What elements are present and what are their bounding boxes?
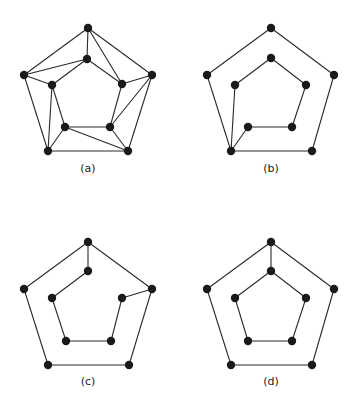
edge-or-obr	[129, 289, 152, 365]
vertex-ol	[203, 285, 211, 293]
edge-ibr-ir	[110, 84, 122, 127]
panel-a: (a)	[20, 24, 156, 175]
edge-it-ir	[271, 58, 306, 85]
vertex-ir	[302, 294, 310, 302]
vertex-or	[330, 71, 338, 79]
edge-or-obr	[312, 289, 334, 365]
panel-c: (c)	[20, 238, 156, 388]
panel-c-edges	[24, 242, 152, 365]
vertex-it	[267, 54, 275, 62]
edge-obl-ol	[24, 75, 48, 151]
panel-b-label: (b)	[263, 162, 279, 175]
panel-d-label: (d)	[263, 375, 279, 388]
vertex-il	[231, 294, 239, 302]
vertex-obr	[308, 147, 316, 155]
edge-ot-or	[271, 242, 334, 289]
edge-il-ibl	[52, 298, 66, 341]
vertex-ir	[118, 294, 126, 302]
vertex-ir	[118, 80, 126, 88]
vertex-il	[48, 294, 56, 302]
vertex-ol	[20, 71, 28, 79]
vertex-il	[48, 81, 56, 89]
vertex-ibl	[61, 123, 69, 131]
vertex-ibr	[106, 123, 114, 131]
edge-or-ibr	[110, 75, 152, 127]
vertex-ibl	[244, 123, 252, 131]
edge-ot-ol	[24, 242, 88, 289]
panel-d: (d)	[203, 238, 338, 388]
edge-ir-ibr	[292, 298, 306, 341]
vertex-il	[231, 81, 239, 89]
edge-ibr-ir	[111, 298, 122, 341]
panel-a-edges	[24, 28, 152, 151]
vertex-it	[83, 55, 91, 63]
edge-ibl-obl	[231, 127, 248, 151]
vertex-obr	[124, 147, 132, 155]
edge-ot-or	[88, 28, 152, 75]
vertex-obl	[44, 361, 52, 369]
panel-c-label: (c)	[81, 375, 96, 388]
edge-ot-ol	[207, 242, 271, 289]
panel-b-edges	[207, 28, 334, 151]
vertex-obl	[227, 147, 235, 155]
vertex-it	[267, 267, 275, 275]
edge-ot-or	[271, 28, 334, 75]
vertex-or	[330, 285, 338, 293]
edge-it-ir	[271, 271, 306, 298]
panel-b: (b)	[203, 24, 338, 175]
edge-ot-ol	[24, 28, 88, 75]
edge-ot-ir	[88, 28, 122, 84]
vertex-ot	[267, 238, 275, 246]
vertex-ol	[203, 71, 211, 79]
vertex-ibl	[244, 337, 252, 345]
edge-it-ir	[87, 59, 122, 84]
edge-il-ibl	[52, 85, 65, 127]
edge-ol-it	[24, 59, 87, 75]
edge-ibl-il	[235, 298, 248, 341]
vertex-obl	[227, 361, 235, 369]
vertex-ibr	[288, 337, 296, 345]
vertex-ibl	[62, 337, 70, 345]
edge-ot-it	[87, 28, 88, 59]
vertex-ot	[84, 238, 92, 246]
vertex-ibr	[107, 337, 115, 345]
edge-ot-or	[88, 242, 152, 289]
edge-or-obr	[312, 75, 334, 151]
edge-or-obr	[128, 75, 152, 151]
vertex-ot	[84, 24, 92, 32]
edge-it-il	[52, 271, 88, 298]
vertex-ir	[302, 81, 310, 89]
vertex-obl	[44, 147, 52, 155]
edge-obl-ol	[207, 289, 231, 365]
edge-ir-or	[122, 289, 152, 298]
vertex-or	[148, 285, 156, 293]
vertex-or	[148, 71, 156, 79]
graph-figure: (a) (b) (c) (d)	[0, 0, 359, 403]
vertex-obr	[125, 361, 133, 369]
edge-ot-ol	[207, 28, 271, 75]
edge-il-obl	[231, 85, 235, 151]
panel-b-nodes	[203, 24, 338, 155]
vertex-ibr	[288, 123, 296, 131]
edge-it-il	[235, 58, 271, 85]
edge-il-obl	[48, 85, 52, 151]
edge-obl-ol	[207, 75, 231, 151]
vertex-it	[84, 267, 92, 275]
panel-d-edges	[207, 242, 334, 365]
edge-obl-ol	[24, 289, 48, 365]
panel-a-label: (a)	[80, 162, 95, 175]
vertex-ol	[20, 285, 28, 293]
edge-ir-ibr	[292, 85, 306, 127]
edge-it-il	[235, 271, 271, 298]
edge-or-ir	[122, 75, 152, 84]
edge-ol-il	[24, 75, 52, 85]
edge-ibl-obl	[48, 127, 65, 151]
vertex-ot	[267, 24, 275, 32]
vertex-obr	[308, 361, 316, 369]
